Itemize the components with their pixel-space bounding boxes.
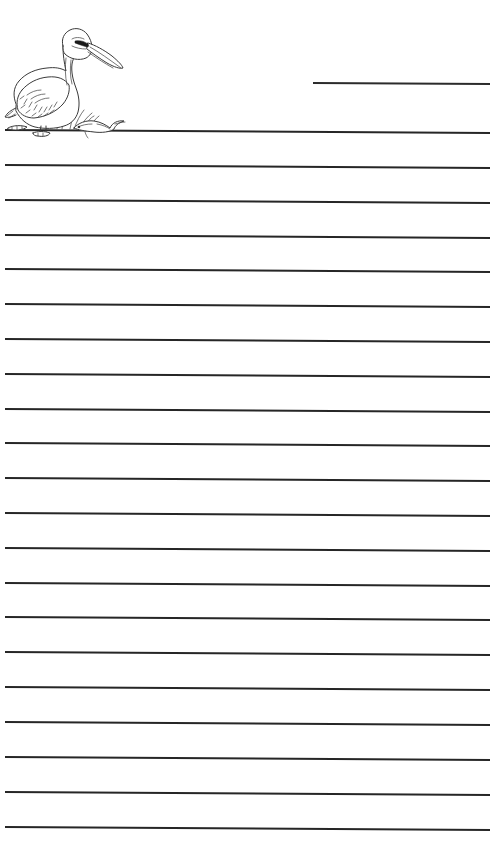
rule-line-10 <box>5 443 490 446</box>
rule-line-9 <box>5 409 490 412</box>
pelican-tail <box>5 108 16 118</box>
paper-canvas <box>0 0 500 863</box>
rule-line-14 <box>5 583 490 586</box>
rule-line-19 <box>5 757 490 760</box>
rule-line-4 <box>5 235 490 238</box>
ruled-lines <box>5 130 490 830</box>
rule-line-2 <box>5 165 490 168</box>
rule-line-1 <box>5 130 490 133</box>
writing-paper-page: Lined Writing Paper with Pelican <box>0 0 500 863</box>
rule-line-12 <box>5 513 490 516</box>
rule-line-13 <box>5 548 490 551</box>
name-line-rule[interactable] <box>313 83 490 84</box>
rule-line-21 <box>5 827 490 830</box>
rule-line-8 <box>5 374 490 377</box>
small-fish-icon <box>74 121 125 138</box>
name-line[interactable] <box>313 83 490 84</box>
rule-line-3 <box>5 200 490 203</box>
rule-line-15 <box>5 617 490 620</box>
pelican-illustration <box>5 29 125 138</box>
rule-line-18 <box>5 722 490 725</box>
pelican-bill <box>87 43 123 68</box>
rule-line-20 <box>5 792 490 795</box>
rule-line-7 <box>5 339 490 342</box>
rule-line-5 <box>5 269 490 272</box>
rule-line-6 <box>5 304 490 307</box>
rule-line-11 <box>5 478 490 481</box>
rule-line-17 <box>5 687 490 690</box>
rule-line-16 <box>5 652 490 655</box>
